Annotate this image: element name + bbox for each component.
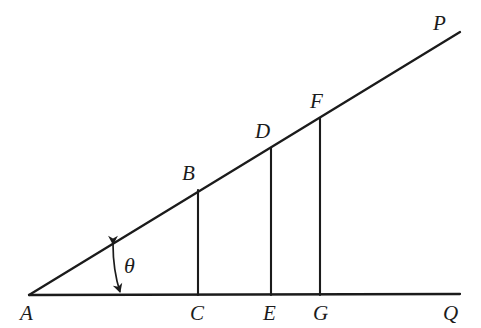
point-label-q: Q	[443, 303, 458, 324]
point-label-f: F	[310, 91, 323, 112]
diagram-canvas	[0, 0, 481, 328]
angle-label-theta: θ	[124, 255, 135, 277]
point-label-e: E	[263, 303, 276, 324]
figure-strokes	[29, 32, 460, 295]
ray-AQ	[29, 294, 460, 295]
point-label-a: A	[20, 303, 33, 324]
point-label-p: P	[433, 13, 446, 34]
geometry-diagram: A B C D E F G P Q θ	[0, 0, 481, 328]
point-label-d: D	[255, 121, 270, 142]
point-label-g: G	[313, 303, 328, 324]
ray-AP	[29, 32, 460, 295]
point-label-b: B	[182, 163, 195, 184]
point-label-c: C	[190, 303, 204, 324]
theta-angle-arrow	[113, 244, 120, 292]
